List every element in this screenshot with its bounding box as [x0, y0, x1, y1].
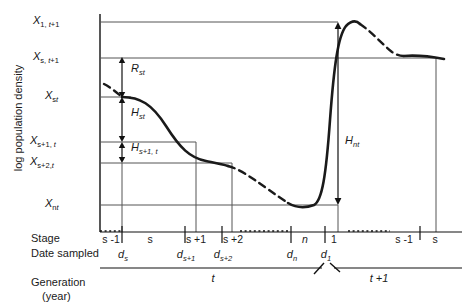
- generation-label-t: t: [200, 272, 226, 284]
- arrow-H-nt-head-down: [335, 198, 342, 205]
- row-label-date-sampled: Date sampled: [31, 247, 99, 259]
- y-tick-label-xnt: Xnt: [45, 197, 59, 212]
- stage-label-s-right: s: [424, 233, 446, 245]
- row-label-stage: Stage: [31, 232, 60, 244]
- y-tick-label-xst: Xst: [45, 89, 58, 104]
- arrow-label-H-s1t: Hs+1, t: [131, 141, 158, 156]
- date-label-d1: d1: [313, 248, 339, 263]
- arrow-H-st-head-down: [119, 136, 125, 142]
- stage-label-s-plus-1: s +1: [181, 233, 211, 245]
- stage-label-s-minus-1-left: s -1: [96, 233, 126, 245]
- y-tick-label-xs2t: Xs+2,t: [30, 155, 54, 170]
- date-label-ds1: ds+1: [170, 248, 202, 263]
- arrow-H-s1t-head-up: [119, 142, 125, 148]
- arrow-H-s1t-head-down: [119, 157, 125, 163]
- y-axis-label: log population density: [12, 38, 24, 198]
- arrow-label-R-st: Rst: [131, 62, 145, 77]
- stage-label-s-left: s: [137, 233, 163, 245]
- row-label-generation: Generation: [31, 276, 85, 288]
- stage-label-1: 1: [327, 233, 341, 245]
- y-tick-label-xst1: Xs, t+1: [33, 50, 59, 65]
- curve-dashed-entry: [104, 84, 122, 97]
- curve-dashed-middle: [228, 166, 288, 203]
- row-label-generation-unit: (year): [42, 290, 71, 302]
- arrow-label-H-nt: Hnt: [345, 134, 359, 149]
- date-label-ds2: ds+2: [207, 248, 239, 263]
- generation-label-t-plus-1: t +1: [362, 272, 396, 284]
- arrow-label-H-st: Hst: [131, 106, 145, 121]
- y-tick-label-xs1t: Xs+1, t: [30, 134, 56, 149]
- arrow-H-nt-head-up: [335, 22, 342, 29]
- curve-dashed-descent: [360, 24, 404, 56]
- stage-label-s-minus-1-right: s -1: [389, 233, 419, 245]
- stage-label-s-plus-2: s +2: [218, 233, 248, 245]
- figure-root: log population density X1, t+1 Xs, t+1 X…: [0, 0, 471, 308]
- curve-solid-right: [288, 22, 360, 208]
- date-label-ds: ds: [110, 248, 136, 263]
- stage-label-n: n: [293, 233, 317, 245]
- y-tick-label-x1t1: X1, t+1: [33, 14, 59, 29]
- date-label-dn: dn: [279, 248, 305, 263]
